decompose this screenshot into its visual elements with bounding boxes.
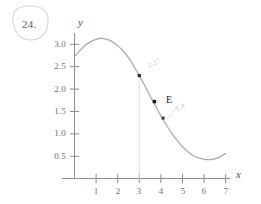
x-tick-label-4: 4 <box>153 186 169 196</box>
point-e-marker <box>153 100 156 103</box>
figure-container: 24. <box>0 0 261 204</box>
y-tick-label-2-5: 2.5 <box>44 61 66 71</box>
y-axis-label: y <box>78 16 83 28</box>
point-upper-marker <box>138 74 141 77</box>
y-tick-label-0-5: 0.5 <box>44 151 66 161</box>
plot-area <box>0 0 261 204</box>
point-lower-marker <box>162 117 165 120</box>
problem-number-circle <box>13 6 48 40</box>
y-tick-label-3-0: 3.0 <box>44 39 66 49</box>
x-tick-label-5: 5 <box>175 186 191 196</box>
y-tick-label-1-5: 1.5 <box>44 106 66 116</box>
data-curve-path <box>75 38 226 159</box>
x-tick-label-3: 3 <box>131 186 147 196</box>
x-tick-label-6: 6 <box>196 186 212 196</box>
x-axis-label: x <box>236 168 241 180</box>
x-tick-label-1: 1 <box>88 186 104 196</box>
x-tick-label-7: 7 <box>218 186 234 196</box>
point-e-label: E <box>166 94 172 105</box>
axes <box>62 33 230 179</box>
y-tick-label-2-0: 2.0 <box>44 84 66 94</box>
x-tick-label-2: 2 <box>110 186 126 196</box>
y-tick-label-1-0: 1.0 <box>44 128 66 138</box>
